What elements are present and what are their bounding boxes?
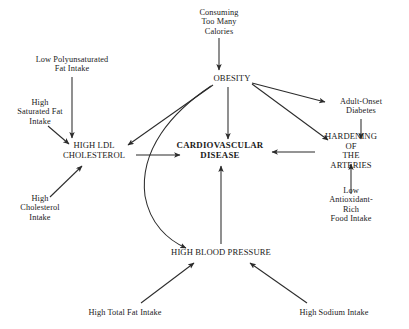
node-cardiovascular-disease: CARDIOVASCULAR DISEASE	[177, 141, 264, 161]
node-high-cholesterol-intake: High Cholesterol Intake	[20, 194, 59, 222]
node-low-polyunsaturated-fat-intake: Low Polyunsaturated Fat Intake	[36, 55, 109, 74]
edge-cholesterol-intake-to-ldl	[50, 166, 82, 197]
node-obesity: OBESITY	[214, 74, 251, 84]
node-high-blood-pressure: HIGH BLOOD PRESSURE	[171, 248, 271, 258]
edge-sodium-to-blood-pressure	[250, 263, 307, 303]
node-high-sodium-intake: High Sodium Intake	[299, 308, 368, 317]
node-hardening-of-the-arteries: HARDENING OF THE ARTERIES	[322, 132, 380, 171]
node-high-total-fat-intake: High Total Fat Intake	[88, 308, 161, 317]
node-low-antioxidant-rich-food-intake: Low Antioxidant-Rich Food Intake	[322, 186, 380, 223]
edge-total-fat-to-blood-pressure	[141, 263, 194, 303]
node-consuming-too-many-calories: Consuming Too Many Calories	[199, 8, 238, 36]
node-high-saturated-fat-intake: High Saturated Fat Intake	[17, 98, 62, 126]
node-high-ldl-cholesterol: HIGH LDL CHOLESTEROL	[63, 141, 125, 160]
causal-diagram: Consuming Too Many Calories OBESITY Low …	[0, 0, 409, 329]
node-adult-onset-diabetes: Adult-Onset Diabetes	[340, 97, 382, 116]
